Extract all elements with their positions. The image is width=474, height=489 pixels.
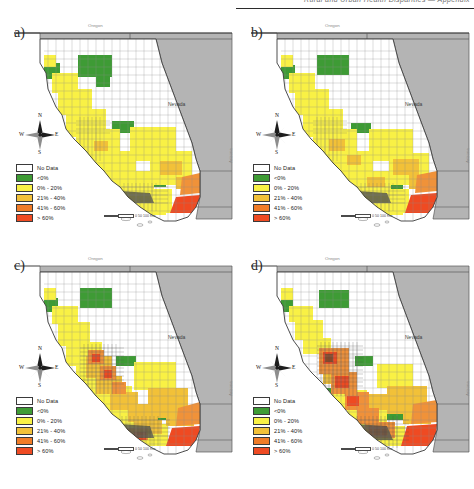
legend-item-no-data-b[interactable]: No Data bbox=[253, 163, 302, 172]
state-label-nevada-d: Nevada bbox=[405, 334, 422, 340]
state-label-oregon-c: Oregon bbox=[88, 256, 103, 261]
map-panel-b[interactable]: b) bbox=[237, 11, 474, 244]
scale-bar-label: 0 50 100 Km bbox=[372, 214, 392, 218]
legend-item-gt60-a[interactable]: > 60% bbox=[16, 213, 65, 222]
legend-label-no-data-a: No Data bbox=[37, 165, 58, 171]
map-legend-a: No Data <0% 0% - 20% 21% - 40% 41% - 60%… bbox=[16, 163, 65, 222]
compass-label-north-a: N bbox=[38, 113, 42, 119]
state-label-nevada-a: Nevada bbox=[168, 101, 185, 107]
legend-swatch-21-40-c bbox=[16, 427, 33, 435]
legend-item-neg-a[interactable]: <0% bbox=[16, 173, 65, 182]
scale-bar-a: 0 50 100 Km bbox=[104, 206, 155, 224]
compass-label-west-a: W bbox=[19, 132, 24, 138]
legend-item-41-60-c[interactable]: 41% - 60% bbox=[16, 436, 65, 445]
legend-swatch-neg-a bbox=[16, 174, 33, 182]
legend-item-gt60-c[interactable]: > 60% bbox=[16, 446, 65, 455]
legend-item-41-60-b[interactable]: 41% - 60% bbox=[253, 203, 302, 212]
legend-swatch-neg-c bbox=[16, 407, 33, 415]
legend-label-21-40-a: 21% - 40% bbox=[37, 195, 65, 201]
scale-bar-label: 0 50 100 Km bbox=[372, 447, 392, 451]
compass-label-west-b: W bbox=[256, 132, 261, 138]
legend-swatch-0-20-a bbox=[16, 184, 33, 192]
compass-label-north-b: N bbox=[275, 113, 279, 119]
scale-bar-segment-alt bbox=[355, 214, 371, 218]
scale-bar-d: 0 50 100 Km bbox=[341, 439, 392, 457]
legend-item-0-20-a[interactable]: 0% - 20% bbox=[16, 183, 65, 192]
legend-item-0-20-c[interactable]: 0% - 20% bbox=[16, 416, 65, 425]
scale-bar-segment bbox=[104, 215, 118, 217]
legend-label-41-60-a: 41% - 60% bbox=[37, 205, 65, 211]
legend-label-21-40-b: 21% - 40% bbox=[274, 195, 302, 201]
scale-bar-label: 0 50 100 Km bbox=[135, 447, 155, 451]
legend-swatch-gt60-b bbox=[253, 214, 270, 222]
compass-rose-d: N S W E bbox=[255, 346, 299, 390]
legend-item-neg-d[interactable]: <0% bbox=[253, 406, 302, 415]
legend-label-0-20-d: 0% - 20% bbox=[274, 418, 299, 424]
legend-swatch-no-data-b bbox=[253, 164, 270, 172]
legend-item-gt60-b[interactable]: > 60% bbox=[253, 213, 302, 222]
legend-swatch-gt60-d bbox=[253, 447, 270, 455]
map-panel-c[interactable]: c) bbox=[0, 244, 237, 489]
legend-item-neg-b[interactable]: <0% bbox=[253, 173, 302, 182]
state-label-arizona-a: Arizona bbox=[228, 148, 233, 163]
legend-label-neg-b: <0% bbox=[274, 175, 286, 181]
compass-label-north-d: N bbox=[275, 346, 279, 352]
compass-rose-c: N S W E bbox=[18, 346, 62, 390]
legend-label-gt60-a: > 60% bbox=[37, 215, 54, 221]
state-label-arizona-d: Arizona bbox=[465, 381, 470, 396]
legend-swatch-no-data-a bbox=[16, 164, 33, 172]
running-head-text: Rural and Urban Health Disparities — App… bbox=[304, 0, 470, 3]
scale-bar-label: 0 50 100 Km bbox=[135, 214, 155, 218]
state-label-arizona-c: Arizona bbox=[228, 381, 233, 396]
compass-label-west-d: W bbox=[256, 365, 261, 371]
legend-swatch-21-40-a bbox=[16, 194, 33, 202]
legend-item-21-40-d[interactable]: 21% - 40% bbox=[253, 426, 302, 435]
legend-swatch-0-20-b bbox=[253, 184, 270, 192]
legend-label-neg-a: <0% bbox=[37, 175, 49, 181]
legend-swatch-neg-d bbox=[253, 407, 270, 415]
legend-swatch-neg-b bbox=[253, 174, 270, 182]
legend-item-0-20-d[interactable]: 0% - 20% bbox=[253, 416, 302, 425]
legend-swatch-41-60-a bbox=[16, 204, 33, 212]
legend-swatch-no-data-c bbox=[16, 397, 33, 405]
state-label-arizona-b: Arizona bbox=[465, 148, 470, 163]
compass-rose-b: N S W E bbox=[255, 113, 299, 157]
legend-item-41-60-a[interactable]: 41% - 60% bbox=[16, 203, 65, 212]
map-panel-d[interactable]: d) bbox=[237, 244, 474, 489]
map-legend-c: No Data <0% 0% - 20% 21% - 40% 41% - 60%… bbox=[16, 396, 65, 455]
map-panel-grid: a) bbox=[0, 11, 474, 489]
compass-label-north-c: N bbox=[38, 346, 42, 352]
scale-bar-segment-alt bbox=[118, 447, 134, 451]
legend-label-gt60-c: > 60% bbox=[37, 448, 54, 454]
map-legend-b: No Data <0% 0% - 20% 21% - 40% 41% - 60%… bbox=[253, 163, 302, 222]
compass-label-east-b: E bbox=[292, 132, 295, 138]
compass-label-east-c: E bbox=[55, 365, 58, 371]
legend-item-0-20-b[interactable]: 0% - 20% bbox=[253, 183, 302, 192]
legend-label-0-20-b: 0% - 20% bbox=[274, 185, 299, 191]
legend-swatch-41-60-b bbox=[253, 204, 270, 212]
legend-item-21-40-c[interactable]: 21% - 40% bbox=[16, 426, 65, 435]
panel-label-c: c) bbox=[14, 258, 25, 274]
legend-swatch-41-60-d bbox=[253, 437, 270, 445]
legend-label-no-data-d: No Data bbox=[274, 398, 295, 404]
legend-swatch-21-40-d bbox=[253, 427, 270, 435]
legend-item-21-40-a[interactable]: 21% - 40% bbox=[16, 193, 65, 202]
map-panel-a[interactable]: a) bbox=[0, 11, 237, 244]
legend-label-no-data-c: No Data bbox=[37, 398, 58, 404]
legend-item-neg-c[interactable]: <0% bbox=[16, 406, 65, 415]
legend-label-0-20-c: 0% - 20% bbox=[37, 418, 62, 424]
legend-item-21-40-b[interactable]: 21% - 40% bbox=[253, 193, 302, 202]
compass-label-south-b: S bbox=[275, 150, 278, 156]
legend-item-no-data-c[interactable]: No Data bbox=[16, 396, 65, 405]
state-label-oregon-a: Oregon bbox=[88, 23, 103, 28]
legend-item-no-data-a[interactable]: No Data bbox=[16, 163, 65, 172]
panel-label-d: d) bbox=[251, 258, 263, 274]
legend-label-gt60-d: > 60% bbox=[274, 448, 291, 454]
scale-bar-segment-alt bbox=[355, 447, 371, 451]
legend-item-gt60-d[interactable]: > 60% bbox=[253, 446, 302, 455]
legend-label-41-60-b: 41% - 60% bbox=[274, 205, 302, 211]
map-legend-d: No Data <0% 0% - 20% 21% - 40% 41% - 60%… bbox=[253, 396, 302, 455]
legend-item-41-60-d[interactable]: 41% - 60% bbox=[253, 436, 302, 445]
legend-item-no-data-d[interactable]: No Data bbox=[253, 396, 302, 405]
compass-label-south-c: S bbox=[38, 383, 41, 389]
